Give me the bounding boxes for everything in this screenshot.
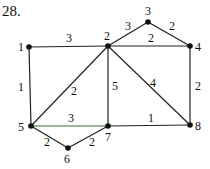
edge-weight-label: 5 [112, 79, 118, 93]
edge-weight-label: 1 [148, 111, 154, 125]
node-6 [65, 145, 71, 151]
weighted-graph: 313222542312212345678 [0, 0, 210, 169]
node-5 [28, 123, 34, 129]
edge-weight-label: 2 [169, 19, 175, 33]
node-3 [145, 19, 151, 25]
node-2 [105, 43, 111, 49]
edge-weight-label: 4 [150, 76, 156, 90]
edge-weight-label: 2 [89, 135, 95, 149]
node-label: 7 [105, 130, 111, 144]
edge-weight-label: 2 [44, 135, 50, 149]
node-1 [26, 44, 32, 50]
node-label: 8 [195, 119, 201, 133]
edge-weight-label: 2 [71, 84, 77, 98]
edge-7-8 [108, 125, 190, 126]
node-7 [105, 123, 111, 129]
node-label: 4 [195, 40, 201, 54]
edge-6-7 [68, 126, 108, 148]
edge-weight-label: 2 [195, 79, 201, 93]
node-label: 1 [18, 40, 24, 54]
edge-weight-label: 3 [68, 111, 74, 125]
edge-weight-label: 1 [18, 80, 24, 94]
node-label: 5 [18, 120, 24, 134]
edge-weight-label: 3 [66, 31, 72, 45]
node-label: 3 [145, 4, 151, 18]
node-label: 2 [104, 29, 110, 43]
edge-weight-label: 3 [125, 19, 131, 33]
node-label: 6 [64, 152, 70, 166]
node-8 [187, 122, 193, 128]
edge-weight-label: 2 [148, 31, 154, 45]
edge-1-5 [29, 47, 31, 126]
edge-1-2 [29, 46, 108, 47]
node-4 [187, 43, 193, 49]
